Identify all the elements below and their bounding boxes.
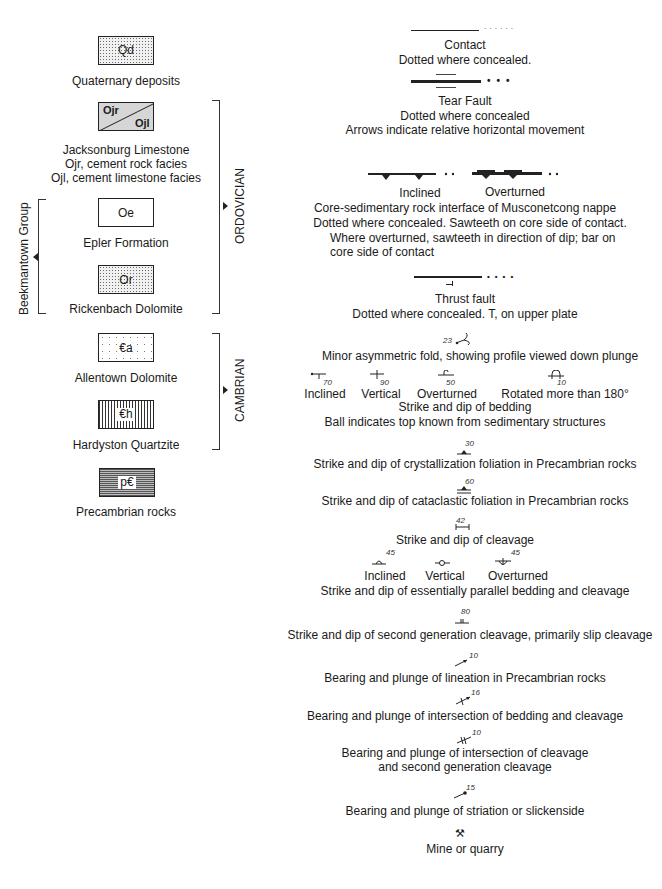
unit-symbol: p€ [118, 476, 135, 489]
unit-symbol-ojr: Ojr [103, 104, 119, 116]
minor-fold-value: 23 [443, 336, 452, 345]
parallel-bedding-cleavage-desc: Strike and dip of essentially parallel b… [295, 584, 655, 598]
thrust-fault-line-icon [414, 276, 482, 278]
unit-symbol-ojl: Ojl [135, 117, 150, 129]
core-interface-overturned-label: Overturned [475, 185, 555, 199]
bedding-rotated-label: Rotated more than 180° [495, 387, 635, 401]
minor-fold-icon [455, 332, 475, 346]
intersection-bedding-cleavage-icon [454, 693, 474, 707]
bedding-inclined-value: 70 [323, 378, 332, 387]
contact-title: Contact [330, 38, 600, 52]
bedding-vertical-value: 90 [380, 378, 389, 387]
ordovician-bracket [212, 100, 220, 314]
unit-symbol: €h [117, 408, 134, 421]
thrust-fault-desc: Dotted where concealed. T, on upper plat… [300, 307, 630, 321]
parallel-vertical-label: Vertical [415, 569, 475, 583]
tear-fault-arrow-right-icon [436, 87, 456, 88]
parallel-inclined-label: Inclined [355, 569, 415, 583]
cambrian-bracket [212, 333, 220, 450]
parallel-bedding-cleavage-icon [370, 556, 570, 568]
bedding-title: Strike and dip of bedding [330, 400, 600, 414]
crystallization-foliation-desc: Strike and dip of crystallization foliat… [295, 457, 655, 471]
core-interface-line4: core side of contact [330, 245, 434, 259]
crystallization-foliation-value: 30 [465, 439, 474, 448]
mine-quarry-desc: Mine or quarry [330, 842, 600, 856]
thrust-fault-t-bar-icon [452, 281, 453, 286]
contact-desc: Dotted where concealed. [330, 53, 600, 67]
striation-desc: Bearing and plunge of striation or slick… [300, 804, 630, 818]
parallel-inclined-value: 45 [386, 548, 395, 557]
bedding-inclined-label: Inclined [300, 387, 350, 401]
unit-box-or: Or [98, 265, 154, 294]
unit-box-ca: €a [98, 333, 154, 362]
intersection-cleavages-desc2: and second generation cleavage [300, 760, 630, 774]
unit-box-jacksonburg: Ojr Ojl [98, 102, 154, 131]
cataclastic-foliation-desc: Strike and dip of cataclastic foliation … [295, 494, 655, 508]
bedding-desc: Ball indicates top known from sedimentar… [300, 415, 630, 429]
unit-symbol: Qd [116, 44, 136, 57]
contact-line-icon [411, 30, 479, 31]
beekmantown-bracket [38, 199, 46, 314]
beekmantown-label: Beekmantown Group [17, 202, 31, 315]
second-gen-cleavage-icon [454, 617, 472, 625]
tear-fault-line-icon [411, 80, 481, 83]
parallel-overturned-value: 45 [511, 548, 520, 557]
unit-box-pc: p€ [99, 468, 155, 497]
parallel-overturned-label: Overturned [478, 569, 558, 583]
core-interface-line2: Dotted where concealed. Sawteeth on core… [300, 216, 640, 230]
intersection-cleavages-icon [455, 733, 475, 747]
tear-fault-arrow-left-icon [436, 74, 456, 75]
thrust-fault-dots-icon: •••• [487, 274, 518, 280]
unit-box-qd: Qd [98, 36, 154, 65]
unit-symbol: €a [119, 341, 132, 355]
minor-fold-desc: Minor asymmetric fold, showing profile v… [300, 349, 660, 363]
unit-symbol: Or [119, 273, 132, 287]
beekmantown-pointer-icon [33, 253, 38, 261]
tear-fault-desc1: Dotted where concealed [330, 109, 600, 123]
bedding-overturned-label: Overturned [412, 387, 482, 401]
ordovician-pointer-icon [223, 202, 228, 210]
tear-fault-title: Tear Fault [330, 94, 600, 108]
tear-fault-dots-icon: ••• [487, 78, 516, 84]
core-interface-inclined-label: Inclined [390, 186, 450, 200]
unit-label-pc: Precambrian rocks [0, 505, 256, 519]
lineation-icon [453, 656, 473, 668]
unit-label-qd: Quaternary deposits [0, 74, 256, 88]
unit-box-oe: Oe [98, 198, 154, 227]
mine-quarry-icon: ⚒ [440, 826, 480, 840]
core-interface-line3: Where overturned, sawteeth in direction … [330, 231, 616, 245]
cambrian-label: CAMBRIAN [233, 359, 247, 422]
unit-box-ch: €h [98, 400, 154, 429]
second-gen-cleavage-value: 80 [461, 607, 470, 616]
cleavage-icon [455, 523, 471, 531]
bedding-vertical-label: Vertical [356, 387, 406, 401]
bedding-overturned-value: 50 [446, 378, 455, 387]
core-interface-line1: Core-sedimentary rock interface of Musco… [300, 201, 630, 215]
ordovician-label: ORDOVICIAN [233, 168, 247, 244]
second-gen-cleavage-desc: Strike and dip of second generation clea… [280, 628, 660, 642]
cleavage-desc: Strike and dip of cleavage [330, 533, 600, 547]
lineation-desc: Bearing and plunge of lineation in Preca… [300, 671, 630, 685]
contact-dots-icon: ······ [484, 26, 516, 32]
crystallization-foliation-icon [455, 448, 475, 456]
intersection-bedding-cleavage-desc: Bearing and plunge of intersection of be… [290, 709, 640, 723]
thrust-fault-title: Thrust fault [330, 292, 600, 306]
unit-symbol: Oe [118, 206, 134, 220]
intersection-cleavages-desc1: Bearing and plunge of intersection of cl… [300, 746, 630, 760]
cambrian-pointer-icon [223, 386, 228, 394]
tear-fault-desc2: Arrows indicate relative horizontal move… [300, 123, 630, 137]
striation-icon [452, 789, 472, 801]
core-interface-symbols-icon [360, 166, 570, 182]
bedding-rotated-value: 10 [557, 378, 566, 387]
